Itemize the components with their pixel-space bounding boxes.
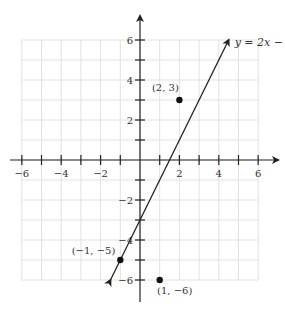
data-point (117, 257, 123, 263)
x-tick-label: −2 (93, 168, 108, 179)
x-tick-label: −6 (14, 168, 29, 179)
axes (10, 16, 278, 302)
x-tick-label: 6 (255, 168, 261, 179)
point-label: (2, 3) (152, 82, 179, 93)
line-equation-label: y = 2x − 3 (234, 36, 285, 49)
y-tick-label: 6 (127, 35, 133, 46)
x-tick-label: 2 (176, 168, 182, 179)
plotted-lines: y = 2x − 3 (110, 36, 285, 280)
x-tick-label: 4 (216, 168, 222, 179)
y-tick-label: 4 (127, 75, 133, 86)
x-tick-label: −4 (54, 168, 69, 179)
y-tick-label: 2 (127, 115, 133, 126)
coordinate-plane: −6−4−2246642−2−4−6 y = 2x − 3 (2, 3)(−1,… (0, 0, 285, 317)
data-point (157, 277, 163, 283)
y-tick-label: −6 (118, 275, 133, 286)
data-point (176, 97, 182, 103)
point-label: (1, −6) (157, 285, 192, 296)
y-tick-label: −2 (118, 195, 133, 206)
point-label: (−1, −5) (72, 245, 116, 256)
